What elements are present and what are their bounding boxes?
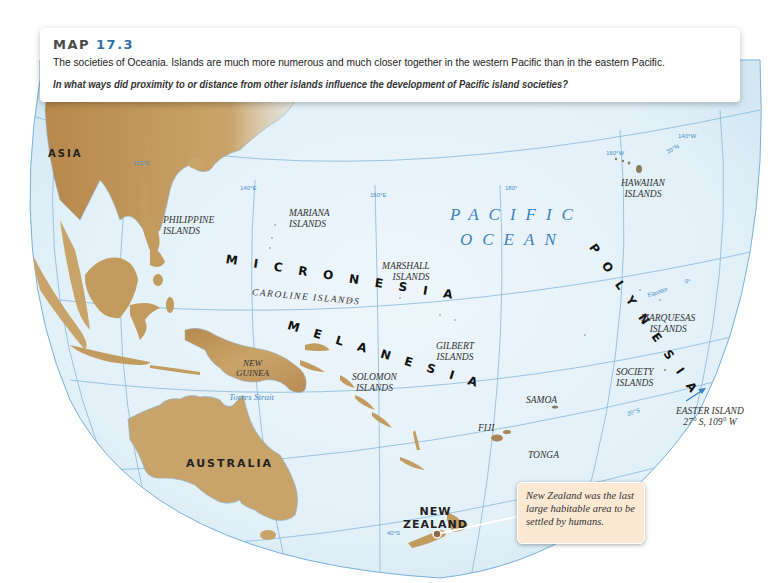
grid-label-160e: 160°E: [370, 192, 386, 198]
grid-label-140e: 140°E: [240, 185, 256, 191]
map-caption: MAP 17.3 The societies of Oceania. Islan…: [40, 28, 740, 102]
label-solomon-line1: SOLOMON: [352, 372, 397, 383]
label-easter-island: EASTER ISLAND 27° S, 109° W: [676, 406, 744, 428]
map-label: MAP: [53, 37, 90, 52]
label-new-guinea: NEW GUINEA: [236, 358, 269, 378]
label-hawaiian-islands: HAWAIIAN ISLANDS: [621, 178, 665, 200]
label-new-zealand: NEW ZEALAND: [403, 505, 468, 531]
grid-label-140w: 140°W: [678, 133, 696, 139]
label-hawaiian-line2: ISLANDS: [621, 189, 665, 200]
fiji-landmass: [491, 435, 503, 442]
label-marquesas-line1: MARQUESAS: [641, 313, 695, 324]
callout-text: New Zealand was the last large habitable…: [526, 489, 638, 528]
label-new-zealand-line2: ZEALAND: [403, 518, 468, 531]
grid-label-40s: 40°S: [387, 530, 400, 536]
label-easter-line2: 27° S, 109° W: [676, 417, 744, 428]
new-zealand-callout: New Zealand was the last large habitable…: [517, 482, 645, 544]
label-philippine-line2: ISLANDS: [163, 226, 214, 237]
label-australia: AUSTRALIA: [186, 457, 273, 470]
label-solomon-line2: ISLANDS: [352, 383, 397, 394]
grid-label-160w: 160°W: [606, 150, 624, 156]
map-title: MAP 17.3: [53, 37, 134, 52]
map-description: The societies of Oceania. Islands are mu…: [53, 56, 665, 68]
label-marshall-line2: ISLANDS: [382, 272, 430, 283]
label-gilbert-islands: GILBERT ISLANDS: [436, 341, 474, 363]
label-hawaiian-line1: HAWAIIAN: [621, 178, 665, 189]
label-marshall-islands: MARSHALL ISLANDS: [382, 261, 430, 283]
label-mariana-line1: MARIANA: [289, 208, 330, 219]
label-mariana-islands: MARIANA ISLANDS: [289, 208, 330, 230]
label-easter-line1: EASTER ISLAND: [676, 406, 744, 417]
label-pacific: PACIFIC: [450, 205, 583, 225]
map-number: 17.3: [96, 37, 134, 52]
label-gilbert-line1: GILBERT: [436, 341, 474, 352]
label-new-guinea-line1: NEW: [236, 358, 269, 368]
grid-label-120e: 120°E: [133, 160, 149, 166]
label-society-line2: ISLANDS: [616, 378, 653, 389]
label-solomon-islands: SOLOMON ISLANDS: [352, 372, 397, 394]
label-samoa: SAMOA: [526, 395, 557, 406]
label-philippine-islands: PHILIPPINE ISLANDS: [163, 215, 214, 237]
label-marshall-line1: MARSHALL: [382, 261, 430, 272]
callout-marker: [433, 530, 441, 538]
label-marquesas-line2: ISLANDS: [641, 324, 695, 335]
label-gilbert-line2: ISLANDS: [436, 352, 474, 363]
grid-label-0: 0°: [685, 278, 691, 284]
label-fiji: FIJI: [478, 423, 494, 434]
label-society-line1: SOCIETY: [616, 367, 653, 378]
map-question: In what ways did proximity to or distanc…: [53, 78, 568, 90]
label-ocean: OCEAN: [460, 230, 566, 250]
label-mariana-line2: ISLANDS: [289, 219, 330, 230]
label-asia: ASIA: [48, 148, 82, 159]
label-torres-strait: Torres Strait: [229, 392, 274, 403]
label-tonga: TONGA: [528, 450, 559, 461]
label-philippine-line1: PHILIPPINE: [163, 215, 214, 226]
grid-label-180: 180°: [505, 185, 517, 191]
label-society-islands: SOCIETY ISLANDS: [616, 367, 653, 389]
label-new-guinea-line2: GUINEA: [236, 368, 269, 378]
label-new-zealand-line1: NEW: [403, 505, 468, 518]
label-marquesas-islands: MARQUESAS ISLANDS: [641, 313, 695, 335]
